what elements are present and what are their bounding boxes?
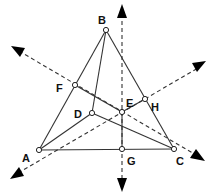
arrow-up-icon bbox=[117, 4, 127, 18]
segment-fe bbox=[75, 85, 122, 112]
arrow-lower-right-icon bbox=[190, 149, 205, 161]
segment-dc bbox=[92, 113, 174, 149]
label-a: A bbox=[22, 152, 30, 164]
point-g bbox=[119, 146, 124, 151]
label-e: E bbox=[126, 97, 133, 109]
label-d: D bbox=[74, 108, 82, 120]
point-c bbox=[171, 146, 176, 151]
label-c: C bbox=[176, 155, 184, 167]
label-f: F bbox=[56, 82, 63, 94]
point-f bbox=[72, 82, 77, 87]
dashed-line-through-f bbox=[19, 51, 196, 155]
segment-ad bbox=[39, 113, 92, 150]
point-e bbox=[119, 109, 124, 114]
label-b: B bbox=[98, 14, 106, 26]
arrow-down-icon bbox=[117, 178, 127, 192]
segment-bc bbox=[106, 30, 174, 149]
point-a bbox=[36, 147, 41, 152]
point-d bbox=[89, 110, 94, 115]
geometry-diagram: A B C D E F G H bbox=[0, 0, 215, 196]
arrow-upper-left-icon bbox=[11, 46, 25, 57]
point-h bbox=[142, 96, 147, 101]
label-h: H bbox=[151, 101, 159, 113]
label-g: G bbox=[127, 155, 136, 167]
arrow-lower-left-icon bbox=[10, 167, 24, 179]
point-b bbox=[103, 27, 108, 32]
segment-ac bbox=[39, 149, 174, 150]
